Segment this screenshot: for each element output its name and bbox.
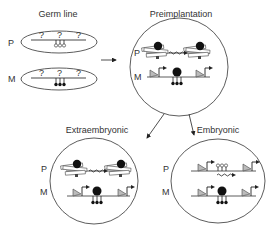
preimplantation-cell: [130, 18, 228, 116]
extraembryonic-cell: [50, 138, 138, 224]
methylated-cpg-icon: [171, 77, 182, 85]
row-label-m: M: [162, 187, 170, 197]
unmethylated-cpg-icon: [54, 40, 65, 47]
methylated-cpg-icon: [54, 78, 65, 86]
heterochromatin-icon: [184, 42, 210, 59]
methylated-cpg-icon: [91, 196, 102, 204]
row-label-m: M: [40, 187, 48, 197]
unknown-mark: ?: [39, 30, 44, 40]
repressor-icon: [173, 68, 182, 77]
unknown-mark: ?: [39, 68, 44, 78]
repressor-icon: [93, 187, 102, 196]
panel-title-embryonic: Embryonic: [197, 125, 240, 135]
wavy-transcript-icon: [217, 173, 236, 177]
promoter-icon: [198, 160, 215, 171]
wavy-transcript-icon: [89, 169, 108, 173]
panel-extraembryonic: Extraembryonic P M: [40, 125, 138, 224]
panel-germline: Germ line P ? ? ? M ? ? ?: [8, 9, 97, 90]
repressor-icon: [218, 187, 227, 196]
promoter-icon: [196, 66, 213, 77]
unknown-mark: ?: [76, 68, 81, 78]
arrow-icon: [147, 114, 164, 138]
wavy-transcript-icon: [169, 51, 188, 55]
promoter-icon: [242, 185, 259, 196]
row-label-m: M: [134, 72, 142, 82]
row-label-m: M: [8, 74, 16, 84]
panel-title-germline: Germ line: [38, 9, 77, 19]
promoter-icon: [118, 185, 135, 196]
panel-embryonic: Embryonic P M: [162, 125, 265, 223]
unknown-mark: ?: [57, 30, 62, 40]
methylated-cpg-icon: [216, 196, 227, 204]
heterochromatin-icon: [142, 42, 168, 59]
unknown-mark: ?: [57, 68, 62, 78]
embryonic-cell: [171, 139, 265, 223]
panel-preimplantation: Preimplantation P M: [130, 9, 228, 116]
diagram-canvas: Germ line P ? ? ? M ? ? ? Preimplantatio…: [0, 0, 280, 230]
heterochromatin-icon: [61, 160, 87, 177]
arrow-icon: [189, 114, 194, 135]
promoter-icon: [150, 66, 167, 77]
promoter-icon: [73, 185, 90, 196]
row-label-p: P: [134, 48, 140, 58]
unknown-mark: ?: [76, 30, 81, 40]
row-label-p: P: [163, 164, 169, 174]
row-label-p: P: [41, 164, 47, 174]
promoter-icon: [243, 160, 260, 171]
promoter-icon: [198, 185, 215, 196]
heterochromatin-icon: [105, 160, 131, 177]
panel-title-extraembryonic: Extraembryonic: [66, 125, 129, 135]
row-label-p: P: [8, 38, 14, 48]
panel-title-preimplantation: Preimplantation: [150, 9, 213, 19]
unmethylated-cpg-icon: [216, 164, 227, 171]
